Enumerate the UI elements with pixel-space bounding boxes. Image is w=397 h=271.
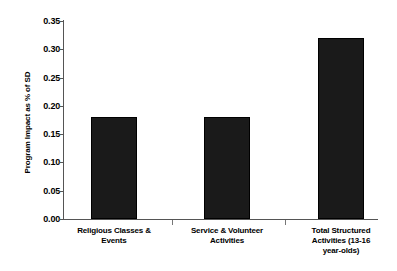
bar-total-structured-activities	[318, 38, 364, 219]
x-category-label-2-line-2: year-olds)	[285, 246, 397, 256]
x-category-label-1-line-1: Activities	[167, 236, 287, 246]
x-category-label-0-line-1: Events	[54, 236, 174, 246]
y-tick-label-0-30: 0.30	[26, 44, 60, 54]
y-axis-line	[63, 20, 64, 220]
x-category-label-0: Religious Classes & Events	[54, 226, 174, 246]
y-tick-label-0-35: 0.35	[26, 16, 60, 26]
x-category-label-0-line-0: Religious Classes &	[54, 226, 174, 236]
y-tick-label-0-20: 0.20	[26, 101, 60, 111]
y-tick-label-0-10: 0.10	[26, 157, 60, 167]
x-category-label-2-line-0: Total Structured	[285, 226, 397, 236]
x-category-label-2: Total Structured Activities (13-16 year-…	[285, 226, 397, 256]
y-tick-label-0-15: 0.15	[26, 129, 60, 139]
y-tick-label-0-05: 0.05	[26, 186, 60, 196]
y-tick-label-0-25: 0.25	[26, 73, 60, 83]
x-tick-mark-2	[285, 220, 286, 225]
bar-religious-classes-events	[91, 117, 137, 219]
x-axis-line	[63, 219, 378, 220]
bar-chart-figure: Program Impact as % of SD 0.00 0.05 0.10…	[0, 0, 397, 271]
x-category-label-2-line-1: Activities (13-16	[285, 236, 397, 246]
bar-service-volunteer-activities	[204, 117, 250, 219]
x-category-label-1: Service & Volunteer Activities	[167, 226, 287, 246]
x-tick-mark-1	[172, 220, 173, 225]
y-tick-label-0-00: 0.00	[26, 214, 60, 224]
x-category-label-1-line-0: Service & Volunteer	[167, 226, 287, 236]
